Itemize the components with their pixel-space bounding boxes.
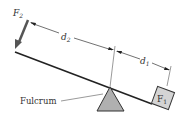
arrowhead-icon [164, 67, 170, 70]
lever-diagram: F1 F2 d2 d1 Fulcrum [0, 0, 184, 123]
force-arrow-f2 [19, 20, 28, 42]
arrowhead-icon [116, 51, 122, 54]
f2-label: F2 [12, 8, 23, 19]
d1-label: d1 [140, 56, 150, 67]
fulcrum-label: Fulcrum [20, 96, 56, 106]
d2-label: d2 [61, 32, 71, 43]
arrowhead-icon [30, 22, 36, 26]
extension-line-fulcrum [110, 46, 115, 87]
fulcrum-leader-line [61, 94, 103, 101]
arrowhead-icon [108, 47, 114, 50]
fulcrum-triangle [97, 87, 124, 111]
